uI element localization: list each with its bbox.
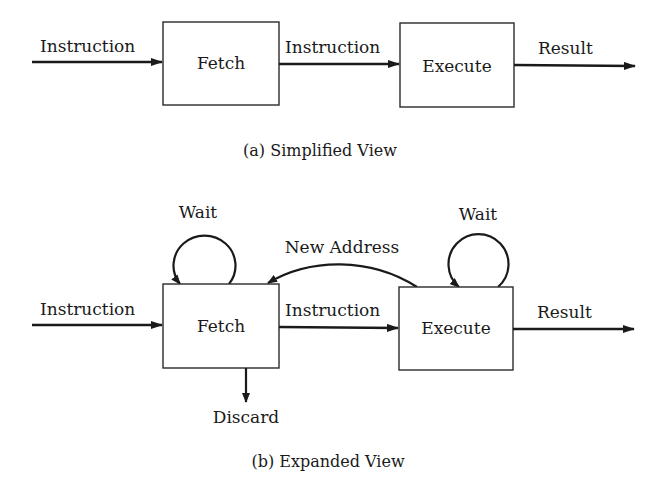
execute-wait-label: Wait — [459, 204, 498, 224]
input-label-b: Instruction — [40, 299, 135, 319]
fetch-wait-loop — [174, 236, 236, 284]
output-label-a: Result — [538, 38, 593, 58]
fetch-wait-label: Wait — [179, 202, 218, 222]
output-arrow-a — [514, 65, 635, 66]
fetch-to-execute-label-a: Instruction — [285, 37, 380, 57]
fetch-to-execute-label-b: Instruction — [285, 300, 380, 320]
new-address-label: New Address — [285, 237, 400, 257]
simplified-view: Instruction Fetch Instruction Execute Re… — [32, 22, 635, 160]
new-address-arrow — [268, 264, 417, 287]
expanded-view: Wait Wait New Address Instruction Fetch … — [32, 202, 634, 471]
fetch-to-execute-arrow-b — [279, 327, 398, 328]
execute-wait-loop — [449, 234, 509, 287]
discard-label: Discard — [213, 407, 280, 427]
fetch-label-b: Fetch — [197, 316, 245, 336]
execute-label-b: Execute — [421, 318, 490, 338]
fetch-label-a: Fetch — [197, 53, 245, 73]
input-label-a: Instruction — [40, 36, 135, 56]
execute-label-a: Execute — [422, 56, 491, 76]
caption-b: (b) Expanded View — [251, 452, 405, 471]
output-label-b: Result — [537, 302, 592, 322]
caption-a: (a) Simplified View — [243, 141, 397, 160]
instruction-cycle-diagram: Instruction Fetch Instruction Execute Re… — [0, 0, 654, 493]
